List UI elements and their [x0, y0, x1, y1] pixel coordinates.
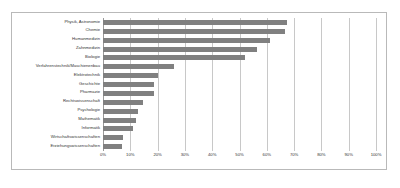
- bar-row: Informatik: [103, 124, 376, 133]
- x-axis-tick: 100%: [371, 152, 382, 157]
- x-axis-tick: 50%: [235, 152, 243, 157]
- bar-row: Biologie: [103, 53, 376, 62]
- plot-area: Physik, AstronomieChemieHumanmedizinZahn…: [103, 18, 376, 151]
- category-label: Zahnmedizin: [76, 44, 100, 53]
- bar-row: Elektrotechnik: [103, 71, 376, 80]
- bar: [103, 82, 154, 87]
- bar-row: Humanmedizin: [103, 36, 376, 45]
- category-label: Geschichte: [79, 80, 100, 89]
- x-axis-tick: 20%: [153, 152, 161, 157]
- x-axis-tick: 0%: [100, 152, 106, 157]
- category-label: Humanmedizin: [72, 35, 100, 44]
- category-label: Informatik: [82, 124, 100, 133]
- category-label: Wirtschaftswissenschaften: [51, 133, 100, 142]
- bar-row: Physik, Astronomie: [103, 18, 376, 27]
- bar: [103, 64, 174, 69]
- bar-row: Mathematik: [103, 116, 376, 125]
- x-axis-tick: 40%: [208, 152, 216, 157]
- bar: [103, 47, 257, 52]
- bar: [103, 29, 285, 34]
- bar: [103, 38, 270, 43]
- bar: [103, 55, 245, 60]
- category-label: Biologie: [85, 53, 100, 62]
- x-axis-tick: 80%: [317, 152, 325, 157]
- bar: [103, 20, 287, 25]
- bar: [103, 118, 136, 123]
- x-axis-tick: 60%: [263, 152, 271, 157]
- scan-artifact-text: [250, 176, 395, 184]
- bar-row: Psychologie: [103, 107, 376, 116]
- bar: [103, 100, 143, 105]
- bar: [103, 91, 154, 96]
- bar-row: Pharmazie: [103, 89, 376, 98]
- x-axis-tick: 70%: [290, 152, 298, 157]
- gridline: [376, 18, 377, 151]
- category-label: Rechtswissenschaft: [63, 97, 100, 106]
- x-axis-tick-labels: 0%10%20%30%40%50%60%70%80%90%100%: [103, 152, 376, 164]
- bar: [103, 144, 122, 149]
- bar-row: Rechtswissenschaft: [103, 98, 376, 107]
- bar-row: Geschichte: [103, 80, 376, 89]
- bar: [103, 73, 158, 78]
- bar-row: Zahnmedizin: [103, 45, 376, 54]
- category-label: Erziehungswissenschaften: [50, 142, 100, 151]
- bar: [103, 135, 123, 140]
- category-label: Pharmazie: [80, 88, 100, 97]
- category-label: Elektrotechnik: [74, 71, 100, 80]
- bar-row: Verfahrenstechnik/Maschienenbau: [103, 62, 376, 71]
- bar-row: Wirtschaftswissenschaften: [103, 133, 376, 142]
- category-label: Physik, Astronomie: [64, 18, 100, 27]
- category-label: Chemie: [86, 26, 100, 35]
- bar: [103, 126, 133, 131]
- category-label: Mathematik: [78, 115, 100, 124]
- bars-layer: Physik, AstronomieChemieHumanmedizinZahn…: [103, 18, 376, 151]
- plot-frame: Physik, AstronomieChemieHumanmedizinZahn…: [11, 12, 387, 170]
- x-axis-tick: 30%: [181, 152, 189, 157]
- x-axis-tick: 90%: [344, 152, 352, 157]
- x-axis-tick: 10%: [126, 152, 134, 157]
- bar-chart-figure: Physik, AstronomieChemieHumanmedizinZahn…: [0, 0, 400, 188]
- bar-row: Chemie: [103, 27, 376, 36]
- bar-row: Erziehungswissenschaften: [103, 142, 376, 151]
- bar: [103, 109, 138, 114]
- category-label: Verfahrenstechnik/Maschienenbau: [36, 62, 100, 71]
- category-label: Psychologie: [77, 106, 100, 115]
